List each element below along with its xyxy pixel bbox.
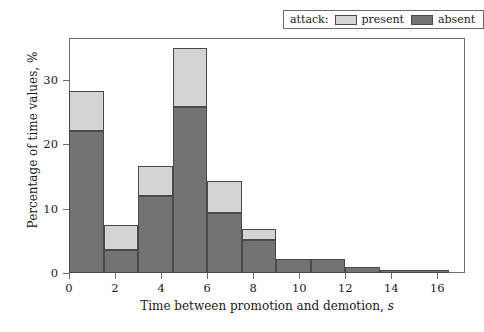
bar-segment-absent — [104, 250, 139, 273]
legend-label-present: present — [362, 14, 404, 25]
y-axis-tick — [63, 80, 69, 81]
bar-segment-absent — [380, 270, 449, 273]
x-axis-tick-label: 14 — [371, 281, 411, 295]
x-axis-tick — [345, 273, 346, 279]
bar-segment-absent — [242, 240, 277, 273]
x-axis-tick — [161, 273, 162, 279]
x-axis-tick-label: 12 — [325, 281, 365, 295]
plot-area — [69, 38, 465, 273]
x-axis-tick-label: 4 — [141, 281, 181, 295]
histogram-bar — [207, 181, 242, 273]
bar-segment-present — [69, 91, 104, 132]
bar-segment-absent — [345, 267, 380, 273]
y-axis-label: Percentage of time values, % — [26, 30, 40, 250]
histogram-bar — [69, 91, 104, 273]
chart-legend: attack: present absent — [283, 10, 484, 29]
bar-segment-present — [207, 181, 242, 213]
x-axis-tick-label: 8 — [233, 281, 273, 295]
legend-swatch-present — [335, 15, 357, 25]
legend-title: attack: — [290, 14, 329, 25]
histogram-bar — [104, 225, 139, 273]
histogram-bar — [242, 229, 277, 273]
x-axis-label: Time between promotion and demotion, s — [69, 299, 465, 313]
bar-segment-absent — [207, 213, 242, 273]
x-axis-tick — [437, 273, 438, 279]
legend-label-absent: absent — [438, 14, 475, 25]
legend-swatch-absent — [411, 15, 433, 25]
bar-segment-present — [104, 225, 139, 250]
histogram-bar — [276, 259, 311, 273]
bar-segment-absent — [69, 131, 104, 273]
x-axis-tick — [69, 273, 70, 279]
x-axis-tick-label: 0 — [49, 281, 89, 295]
x-axis-tick — [115, 273, 116, 279]
bar-segment-present — [242, 229, 277, 239]
x-axis-label-text: Time between promotion and demotion, — [140, 299, 384, 313]
y-axis-tick-label: 0 — [0, 266, 58, 280]
x-axis-label-unit: s — [388, 299, 394, 313]
bar-segment-absent — [311, 259, 346, 273]
bar-segment-absent — [138, 196, 173, 273]
x-axis-tick-label: 16 — [417, 281, 457, 295]
y-axis-tick — [63, 144, 69, 145]
histogram-bar — [138, 166, 173, 273]
bar-segment-present — [173, 48, 208, 107]
bar-segment-absent — [173, 107, 208, 273]
x-axis-tick-label: 2 — [95, 281, 135, 295]
x-axis-tick — [391, 273, 392, 279]
histogram-bar — [345, 267, 380, 273]
x-axis-tick-label: 6 — [187, 281, 227, 295]
bar-segment-present — [138, 166, 173, 196]
x-axis-tick — [299, 273, 300, 279]
histogram-bar — [380, 270, 449, 273]
bar-segment-absent — [276, 259, 311, 273]
histogram-bar — [311, 259, 346, 273]
y-axis-tick — [63, 209, 69, 210]
histogram-bar — [173, 48, 208, 273]
x-axis-tick — [207, 273, 208, 279]
x-axis-tick — [253, 273, 254, 279]
x-axis-tick-label: 10 — [279, 281, 319, 295]
